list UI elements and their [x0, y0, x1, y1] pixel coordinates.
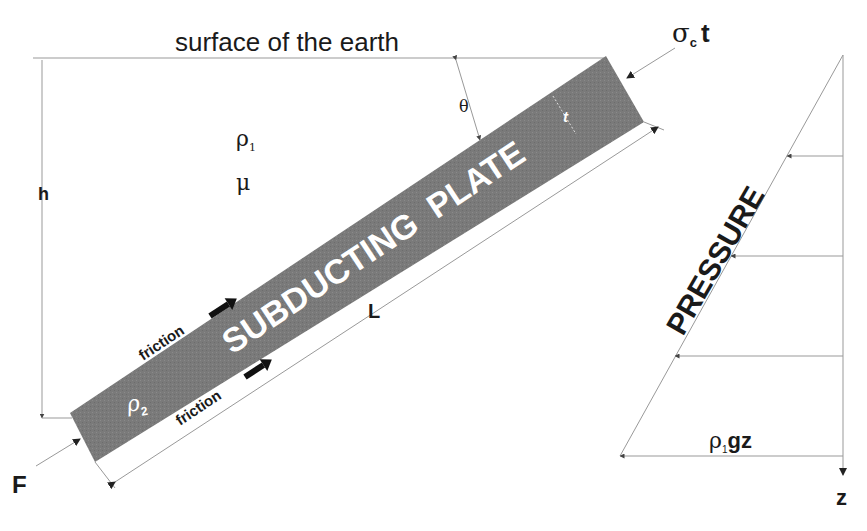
plate-label: SUBDUCTING PLATE — [215, 133, 532, 360]
pressure-label: PRESSURE — [660, 181, 771, 340]
L-label: L — [368, 300, 380, 322]
surface-label: surface of the earth — [175, 27, 399, 57]
h-label: h — [38, 184, 49, 204]
z-label: z — [836, 485, 847, 510]
L-dimension-line — [115, 127, 658, 482]
mu-label: μ — [236, 170, 250, 195]
rhogz-label: ρ1gz — [709, 428, 752, 455]
sigma-label: σct — [672, 18, 710, 50]
rho1-label: ρ1 — [236, 126, 256, 154]
sigma-arrow — [627, 48, 675, 78]
F-label: F — [12, 471, 27, 498]
F-arrow — [36, 439, 80, 466]
theta-label: θ — [459, 97, 469, 116]
subduction-diagram: surface of the earth ρ1 μ h θ t σct SUBD… — [0, 0, 867, 531]
